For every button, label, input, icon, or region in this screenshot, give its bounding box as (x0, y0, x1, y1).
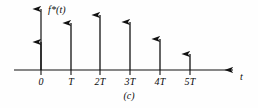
tick-label-4T: 4T (155, 77, 166, 87)
impulse-train-figure: f*(t) t 0 T 2T 3T 4T 5T (c) (0, 0, 258, 108)
tick-label-1T: T (68, 77, 74, 87)
tick-label-3T: 3T (125, 77, 136, 87)
y-axis-label: f*(t) (48, 5, 66, 15)
tick-marks (41, 70, 190, 75)
figure-caption: (c) (0, 90, 258, 101)
x-axis-label: t (240, 72, 243, 82)
tick-label-5T: 5T (185, 77, 196, 87)
tick-label-0: 0 (38, 77, 43, 87)
impulse-series (41, 15, 190, 70)
tick-label-2T: 2T (95, 77, 106, 87)
